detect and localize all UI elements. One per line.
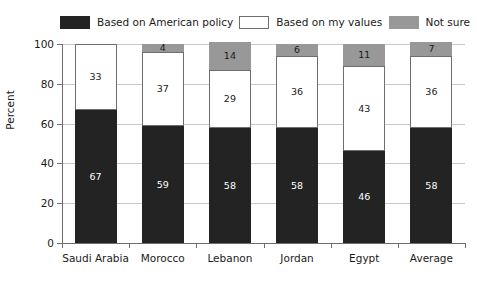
bar-segment-value: 58: [209, 128, 251, 243]
bar-segment-value: 36: [276, 56, 318, 128]
x-tick-label-average: Average: [389, 252, 473, 264]
bar-lebanon[interactable]: 582914: [209, 44, 251, 243]
bar-segment-value: 43: [343, 66, 385, 152]
y-tick-label-0: 0: [28, 237, 54, 249]
legend-swatch-american-policy: [60, 16, 90, 29]
bar-segment-value: 67: [75, 110, 117, 243]
bar-segment-value: 58: [276, 128, 318, 243]
bar-segment-value: 46: [343, 151, 385, 243]
chart-legend: Based on American policy Based on my val…: [60, 13, 470, 31]
x-tick-mark-0: [62, 243, 63, 248]
y-tick-label-20: 20: [28, 197, 54, 209]
x-tick-mark-4: [331, 243, 332, 248]
legend-item-not-sure: Not sure: [389, 16, 470, 29]
x-tick-mark-6: [465, 243, 466, 248]
bar-segment-value: 7: [410, 42, 452, 56]
bar-saudi-arabia[interactable]: 6733: [75, 44, 117, 243]
bar-segment-value: 11: [343, 44, 385, 66]
bar-segment-value: 36: [410, 56, 452, 128]
x-tick-mark-3: [264, 243, 265, 248]
legend-label-not-sure: Not sure: [426, 16, 470, 28]
bar-segment-value: 4: [142, 44, 184, 52]
legend-item-american-policy: Based on American policy: [60, 16, 233, 29]
y-axis-title: Percent: [4, 40, 16, 180]
bar-average[interactable]: 58367: [410, 44, 452, 243]
y-tick-label-80: 80: [28, 78, 54, 90]
bar-egypt[interactable]: 464311: [343, 44, 385, 243]
bar-morocco[interactable]: 59374: [142, 44, 184, 243]
legend-swatch-not-sure: [389, 16, 419, 29]
bar-series-layer: 6733593745829145836646431158367: [62, 44, 465, 243]
legend-label-american-policy: Based on American policy: [97, 16, 233, 28]
bar-segment-value: 33: [75, 44, 117, 110]
bar-segment-value: 14: [209, 42, 251, 70]
x-tick-mark-1: [129, 243, 130, 248]
bar-segment-value: 37: [142, 52, 184, 126]
y-tick-label-100: 100: [28, 38, 54, 50]
legend-item-my-values: Based on my values: [239, 16, 382, 29]
bar-segment-value: 6: [276, 44, 318, 56]
legend-label-my-values: Based on my values: [276, 16, 382, 28]
bar-jordan[interactable]: 58366: [276, 44, 318, 243]
stacked-bar-chart: Based on American policy Based on my val…: [0, 0, 477, 288]
x-tick-mark-2: [196, 243, 197, 248]
y-tick-label-60: 60: [28, 118, 54, 130]
y-tick-label-40: 40: [28, 157, 54, 169]
bar-segment-value: 29: [209, 70, 251, 128]
x-tick-mark-5: [398, 243, 399, 248]
bar-segment-value: 59: [142, 126, 184, 243]
bar-segment-value: 58: [410, 128, 452, 243]
legend-swatch-my-values: [239, 16, 269, 29]
